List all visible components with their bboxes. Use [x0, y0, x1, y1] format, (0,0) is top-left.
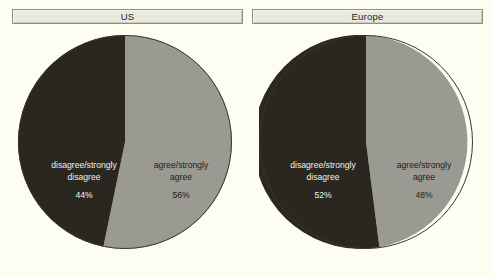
pie-svg-europe [259, 35, 473, 249]
pie-svg-us [18, 35, 232, 249]
figure-caption-clipped [0, 268, 492, 277]
pie-slice-europe-agree [366, 35, 467, 247]
panel-title-box-europe: Europe [252, 9, 483, 24]
pie-slice-us-disagree [18, 35, 125, 247]
pie-chart-europe: disagree/strongly disagree 52% agree/str… [259, 35, 473, 249]
pie-slice-europe-disagree [259, 35, 379, 249]
panel-title-us: US [121, 12, 135, 22]
figure-canvas: US disagree/strongly disagree 44% agree/… [0, 0, 492, 277]
pie-chart-us: disagree/strongly disagree 44% agree/str… [18, 35, 232, 249]
panel-title-box-us: US [12, 9, 243, 24]
panel-title-europe: Europe [352, 12, 384, 22]
